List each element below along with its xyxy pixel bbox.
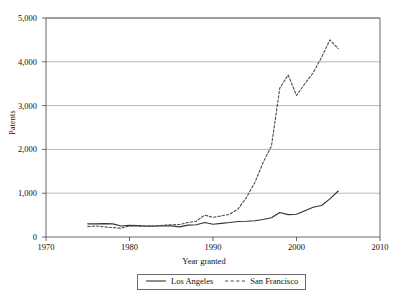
chart-legend: Los Angeles San Francisco [137,274,306,290]
legend-label-san-francisco: San Francisco [250,277,298,286]
legend-item-san-francisco: San Francisco [224,277,298,286]
legend-item-los-angeles: Los Angeles [145,277,213,286]
legend-swatch-solid-icon [145,277,167,285]
series-line-san-francisco [88,40,339,228]
legend-label-los-angeles: Los Angeles [171,277,213,286]
plot-area [0,0,408,296]
patents-line-chart: Patents Year granted 01,0002,0003,0004,0… [0,0,408,296]
series-line-los-angeles [88,191,339,227]
legend-swatch-dashed-icon [224,277,246,285]
